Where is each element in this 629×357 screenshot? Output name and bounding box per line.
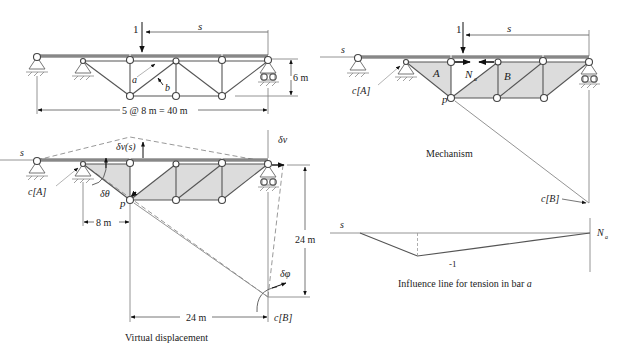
load-label: 1 [456,23,462,35]
c-a-label: c[A] [352,85,370,96]
bar-a-label: a [132,74,137,85]
il-n-label: N [596,227,605,238]
il-caption-prefix: Influence line for tension in bar [398,278,527,289]
c-a-label: c[A] [28,186,46,197]
dim-24m-horizontal-label: 24 m [186,312,207,323]
virtual-displacement-caption: Virtual displacement [125,332,208,343]
il-marks [360,233,590,256]
c-a-pointer [56,168,78,186]
body-a-label: A [432,67,440,79]
s-left-label: s [341,44,345,55]
p-label: p [441,93,448,105]
dphi-label: δφ [280,268,291,279]
force-subscript: a [474,76,477,82]
virtual-displacement-panel: s δv(s) δv δθ p [0,130,316,343]
roller-support [258,61,279,86]
truss-members [83,61,268,96]
il-min-label: -1 [449,259,457,269]
span-label: 5 @ 8 m = 40 m [122,105,188,116]
il-n-subscript: a [605,234,608,240]
structure-panel: 1 s a b [26,20,309,116]
node-p [127,197,134,204]
body-b-label: B [504,70,511,82]
dtheta-label: δθ [100,188,110,199]
influence-line-panel: s N a -1 Influence line for tension in b… [330,218,608,289]
truss-nodes [34,54,272,100]
s-label: s [20,147,24,158]
bar-a-pointer [137,64,155,77]
pole-line [455,101,589,203]
il-s-label: s [340,219,344,230]
dim-8m-label: 8 m [96,217,112,228]
c-b-pointer [562,199,586,203]
dim-24m-vertical-label: 24 m [295,234,316,245]
node-p [448,95,455,102]
c-b-label: c[B] [541,193,559,204]
bar-b-label: b [165,82,170,93]
displaced-beam-line [37,137,268,162]
il-caption: Influence line for tension in bar a [398,278,532,289]
force-label: N [464,68,473,80]
il-series-line [360,233,590,256]
height-label: 6 m [293,72,309,83]
mechanism-caption: Mechanism [426,148,473,159]
mechanism-panel: s 1 s N a A B p c[A] [320,22,600,204]
bar-b-pointer [158,78,163,85]
s-top-label: s [507,22,511,34]
truss-diagram: 1 s a b [0,0,629,357]
load-label: 1 [133,23,139,35]
c-b-label: c[B] [274,312,292,323]
s-label: s [198,20,202,32]
dv-label: δv [278,134,288,145]
c-a-pointer [378,66,400,85]
p-label: p [119,197,126,209]
pole-line [134,203,268,297]
il-caption-bar: a [527,278,532,289]
dv-s-label: δv(s) [116,141,136,153]
